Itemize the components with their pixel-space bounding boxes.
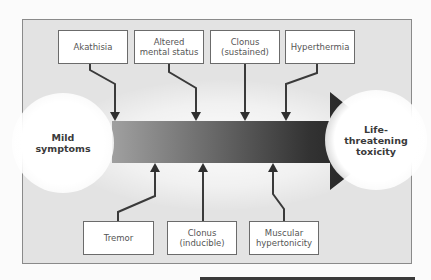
box-akathisia: Akathisia <box>58 30 128 64</box>
arrowhead-down <box>240 112 250 121</box>
box-altered-mental-status: Altered mental status <box>134 30 204 64</box>
connector-muscular-hypertonicity <box>273 168 284 221</box>
box-muscular-hypertonicity: Muscular hypertonicity <box>249 221 319 255</box>
bottom-arrowheads <box>150 163 278 172</box>
connector-tremor <box>118 168 155 221</box>
arrowhead-up <box>268 163 278 172</box>
top-arrowheads <box>110 112 291 121</box>
start-node-mild-symptoms: Mild symptoms <box>12 93 114 193</box>
connector-hyperthermia <box>286 64 317 116</box>
arrowhead-up <box>198 163 208 172</box>
box-hyperthermia: Hyperthermia <box>285 30 355 64</box>
box-tremor: Tremor <box>83 221 154 255</box>
top-connectors <box>90 64 317 116</box>
end-node-life-threatening-toxicity: Life- threatening toxicity <box>325 90 427 190</box>
connector-altered-mental-status <box>169 64 196 116</box>
box-clonus-sustained: Clonus (sustained) <box>210 30 280 64</box>
arrowhead-down <box>191 112 201 121</box>
arrowhead-up <box>150 163 160 172</box>
arrowhead-down <box>281 112 291 121</box>
arrowhead-down <box>110 112 120 121</box>
box-clonus-inducible: Clonus (inducible) <box>167 221 237 255</box>
bottom-connectors <box>118 168 284 221</box>
